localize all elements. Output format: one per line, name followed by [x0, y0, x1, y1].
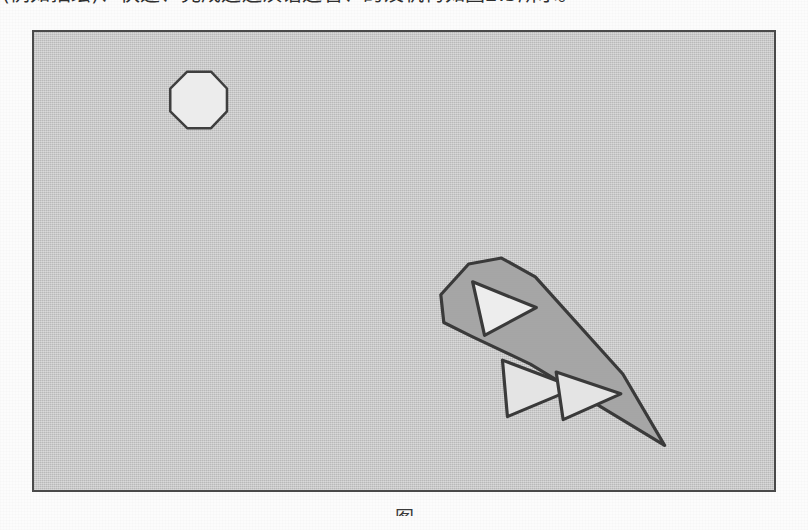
- octagon-shape: [170, 72, 227, 129]
- figure-caption-band: 图: [0, 500, 808, 530]
- figure-frame: [32, 30, 776, 492]
- body-text-line: (例如描绘)、快速、完成运送汉语运管、的及机构如图2.5所示。: [2, 0, 808, 5]
- body-text-clipped-band: (例如描绘)、快速、完成运送汉语运管、的及机构如图2.5所示。: [0, 0, 808, 20]
- figure-canvas: [34, 32, 774, 490]
- figure-caption: 图: [0, 508, 808, 516]
